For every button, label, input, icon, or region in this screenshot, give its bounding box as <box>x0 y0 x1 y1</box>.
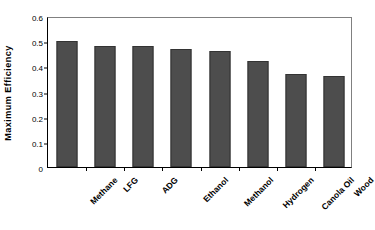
x-axis-tick-label: Ethanol <box>202 175 231 204</box>
bar <box>323 76 344 167</box>
bar-slot <box>201 18 239 167</box>
bar <box>95 46 116 167</box>
bar-slot <box>315 18 353 167</box>
bar-slot <box>48 18 86 167</box>
bar <box>247 61 268 167</box>
bar <box>171 49 192 167</box>
x-axis-tick-label: Methane <box>88 175 119 206</box>
bar-slot <box>124 18 162 167</box>
bar-slot <box>239 18 277 167</box>
x-axis-tick-label: Canola Oil <box>319 175 356 212</box>
bar <box>133 46 154 167</box>
bar <box>285 74 306 167</box>
bar-slot <box>162 18 200 167</box>
y-axis-title-label: Maximum Efficiency <box>3 45 13 141</box>
bars-layer <box>48 18 351 167</box>
x-axis-tick-label: Wood <box>352 175 375 199</box>
x-axis-labels: MethaneLFGADGEthanolMethanolHydrogenCano… <box>47 169 352 230</box>
x-axis-tick-label: Hydrogen <box>280 175 315 210</box>
bar-slot <box>277 18 315 167</box>
y-axis-tick-label: 0.6 <box>32 14 48 23</box>
bar <box>57 41 78 167</box>
x-axis-tick-label: ADG <box>160 175 180 195</box>
y-axis-title: Maximum Efficiency <box>0 16 16 169</box>
plot-area: 00.10.20.30.40.50.6 <box>47 17 352 168</box>
x-axis-tick-label: Methanol <box>241 175 274 208</box>
bar-slot <box>86 18 124 167</box>
x-axis-tick-label: LFG <box>121 175 140 194</box>
bar <box>209 51 230 167</box>
